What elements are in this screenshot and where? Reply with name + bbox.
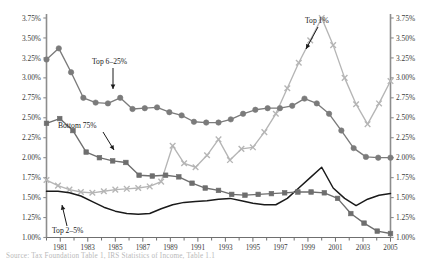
y-axis-tick-label-left: 1.00% (22, 233, 41, 242)
series-label-top-6-25: Top 6–25% (92, 57, 128, 66)
chart-axes: 1.00%1.00%1.25%1.25%1.50%1.50%1.75%1.75%… (22, 14, 415, 252)
x-axis-tick-label: 1985 (108, 244, 123, 252)
y-axis-tick-label-right: 3.50% (396, 34, 415, 43)
series-label-top-2-5: Top 2–5% (52, 226, 84, 235)
y-axis-tick-label-right: 3.75% (396, 14, 415, 23)
x-axis-tick-label: 2003 (356, 244, 371, 252)
y-axis-tick-label-left: 2.25% (22, 133, 41, 142)
y-axis-tick-label-right: 2.25% (396, 133, 415, 142)
y-axis-tick-label-right: 1.25% (396, 213, 415, 222)
y-axis-tick-label-right: 2.50% (396, 113, 415, 122)
series-bottom-75 (44, 116, 393, 236)
y-axis-tick-label-right: 1.50% (396, 193, 415, 202)
x-axis-tick-label: 1981 (53, 244, 68, 252)
y-axis-tick-label-left: 3.50% (22, 34, 41, 43)
chart-figure: 1.00%1.00%1.25%1.25%1.50%1.50%1.75%1.75%… (0, 0, 433, 262)
y-axis-tick-label-right: 2.75% (396, 93, 415, 102)
y-axis-tick-label-left: 1.75% (22, 173, 41, 182)
series-label-top-1: Top 1% (305, 16, 329, 25)
x-axis-tick-label: 1987 (136, 244, 151, 252)
y-axis-tick-label-right: 3.00% (396, 73, 415, 82)
y-axis-tick-label-left: 3.00% (22, 73, 41, 82)
y-axis-tick-label-right: 2.00% (396, 153, 415, 162)
series-label-bottom-75: Bottom 75% (58, 121, 97, 130)
x-axis-tick-label: 1989 (163, 244, 178, 252)
y-axis-tick-label-left: 1.25% (22, 213, 41, 222)
x-axis-tick-label: 2001 (328, 244, 343, 252)
y-axis-tick-label-right: 3.25% (396, 54, 415, 63)
y-axis-tick-label-left: 2.75% (22, 93, 41, 102)
x-axis-tick-label: 2005 (383, 244, 398, 252)
line-chart: 1.00%1.00%1.25%1.25%1.50%1.50%1.75%1.75%… (0, 0, 433, 262)
y-axis-tick-label-right: 1.75% (396, 173, 415, 182)
x-axis-tick-label: 1999 (301, 244, 316, 252)
x-axis-tick-label: 1983 (81, 244, 96, 252)
figure-caption: Source: Tax Foundation Table 1, IRS Stat… (6, 252, 426, 260)
x-axis-tick-label: 1995 (246, 244, 261, 252)
x-axis-tick-label: 1997 (273, 244, 288, 252)
y-axis-tick-label-left: 2.50% (22, 113, 41, 122)
x-axis-tick-label: 1993 (218, 244, 233, 252)
x-axis-tick-label: 1991 (191, 244, 206, 252)
y-axis-tick-label-left: 3.75% (22, 14, 41, 23)
y-axis-tick-label-right: 1.00% (396, 233, 415, 242)
y-axis-tick-label-left: 2.00% (22, 153, 41, 162)
y-axis-tick-label-left: 3.25% (22, 54, 41, 63)
y-axis-tick-label-left: 1.50% (22, 193, 41, 202)
